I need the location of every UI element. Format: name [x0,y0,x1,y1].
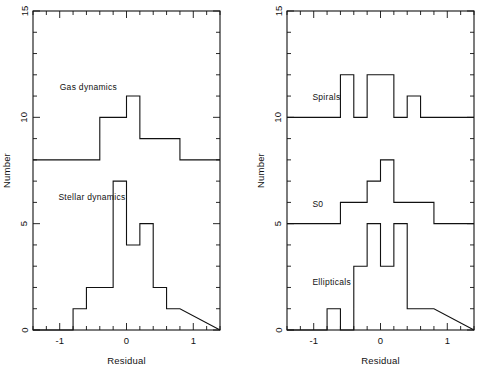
x-axis-label: Residual [107,355,146,366]
x-tick-label: 0 [124,335,129,346]
series-label-gas-dynamics: Gas dynamics [60,82,117,92]
y-tick-label: 0 [19,327,30,332]
y-tick-label: 10 [273,112,284,123]
histogram-gas-dynamics [33,96,220,160]
x-axis-ticks: -101 [33,11,220,346]
plot-frame [33,11,220,330]
x-tick-label: 1 [191,335,196,346]
y-tick-label: 5 [273,221,284,226]
y-tick-label: 10 [19,112,30,123]
series-label-s0: S0 [312,199,323,209]
histogram-stellar-dynamics [33,181,220,330]
figure-canvas: -101051015ResidualNumberGas dynamicsStel… [0,0,479,367]
y-tick-label: 0 [273,327,284,332]
chart-panel-left: -101051015ResidualNumberGas dynamicsStel… [1,6,221,366]
x-tick-label: 1 [445,335,450,346]
y-axis-ticks: 051015 [19,6,221,333]
figure-root: -101051015ResidualNumberGas dynamicsStel… [0,0,479,367]
x-tick-label: -1 [55,335,63,346]
chart-panel-right: -101051015ResidualNumberSpiralsS0Ellipti… [255,6,475,366]
histogram-s0 [287,160,474,224]
series-label-stellar-dynamics: Stellar dynamics [58,192,125,202]
series-label-ellipticals: Ellipticals [312,277,351,287]
x-tick-label: -1 [309,335,317,346]
y-tick-label: 15 [273,6,284,17]
y-axis-label: Number [1,153,12,188]
y-axis-label: Number [255,153,266,188]
x-axis-label: Residual [361,355,400,366]
x-tick-label: 0 [378,335,383,346]
y-tick-label: 15 [19,6,30,17]
series-label-spirals: Spirals [312,92,340,102]
y-tick-label: 5 [19,221,30,226]
plot-panels: -101051015ResidualNumberGas dynamicsStel… [0,0,479,367]
y-axis-ticks: 051015 [273,6,475,333]
